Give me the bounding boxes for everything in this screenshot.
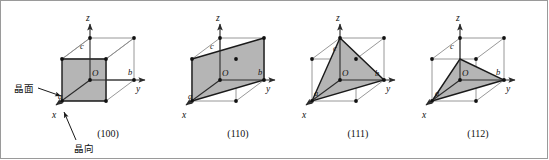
cell-110: z y x c b a O (110) bbox=[181, 13, 275, 140]
label-origin-100: O bbox=[92, 68, 99, 78]
label-b-110: b bbox=[258, 67, 262, 77]
cell-112: z y x c b a O (112) bbox=[421, 13, 515, 140]
label-b-112: b bbox=[496, 67, 500, 77]
label-y-100: y bbox=[135, 84, 141, 94]
crystal-planes-figure: z y x c b a O (100) bbox=[0, 0, 549, 160]
annotation-crystal-direction: 晶向 bbox=[74, 143, 94, 154]
caption-100: (100) bbox=[97, 128, 119, 140]
label-x-110: x bbox=[181, 110, 187, 120]
label-a-110: a bbox=[188, 91, 192, 101]
label-origin-110: O bbox=[222, 68, 229, 78]
label-y-111: y bbox=[385, 84, 391, 94]
label-x-112: x bbox=[421, 110, 427, 120]
cell-111: z y x c b a O (111) bbox=[301, 13, 395, 140]
label-c-110: c bbox=[210, 41, 214, 51]
annotation-crystal-plane: 晶面 bbox=[14, 84, 34, 94]
label-x-111: x bbox=[301, 110, 307, 120]
label-origin-111: O bbox=[342, 68, 349, 78]
label-c-100: c bbox=[80, 41, 84, 51]
figure-canvas: z y x c b a O (100) bbox=[0, 0, 549, 160]
label-b-100: b bbox=[128, 67, 132, 77]
label-b-111: b bbox=[375, 68, 379, 78]
label-y-110: y bbox=[265, 84, 271, 94]
label-c-112: c bbox=[450, 41, 454, 51]
label-origin-112: O bbox=[462, 68, 469, 78]
label-a-111: a bbox=[314, 88, 318, 98]
cell-100: z y x c b a O (100) bbox=[38, 13, 145, 140]
label-z-112: z bbox=[455, 13, 460, 23]
label-z-100: z bbox=[85, 13, 90, 23]
label-a-112: a bbox=[435, 88, 439, 98]
caption-111: (111) bbox=[348, 128, 369, 140]
caption-110: (110) bbox=[227, 128, 248, 140]
label-x-100: x bbox=[51, 110, 57, 120]
label-y-112: y bbox=[505, 84, 511, 94]
caption-112: (112) bbox=[467, 128, 488, 140]
label-z-110: z bbox=[215, 13, 220, 23]
label-z-111: z bbox=[335, 13, 340, 23]
label-c-111: c bbox=[333, 43, 337, 53]
